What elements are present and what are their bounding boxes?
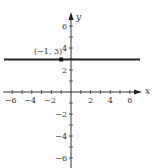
x-tick-label: 4 — [108, 96, 113, 105]
x-tick-label: 2 — [88, 96, 93, 105]
x-axis-arrow-icon — [134, 90, 142, 95]
x-tick-label: −4 — [24, 96, 36, 105]
y-tick-label: 2 — [62, 66, 67, 75]
point-label: (−1, 3) — [34, 47, 62, 56]
point-marker — [59, 58, 63, 62]
axes — [3, 12, 142, 168]
x-tick-label: −6 — [5, 96, 17, 105]
y-tick-label: −6 — [55, 154, 67, 163]
y-tick-label: −4 — [55, 132, 67, 141]
y-tick-label: 6 — [62, 22, 67, 31]
x-tick-label: −2 — [44, 96, 56, 105]
y-axis-label: y — [75, 12, 82, 22]
x-tick-label: 6 — [127, 96, 132, 105]
y-tick-label: −2 — [55, 110, 67, 119]
coordinate-plane: −6−4−2246−6−4−2246 (−1, 3) x y — [0, 0, 155, 168]
y-axis-arrow-icon — [69, 12, 74, 20]
x-axis-label: x — [145, 86, 150, 96]
y-tick-label: 4 — [62, 44, 67, 53]
